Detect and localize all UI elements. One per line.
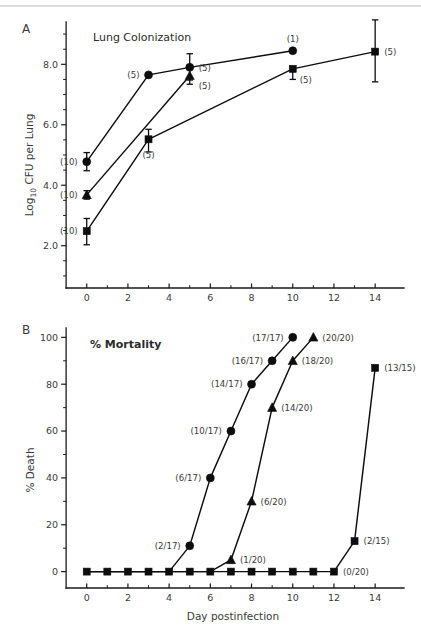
data-point-square <box>186 568 193 575</box>
point-annotation: (0/20) <box>343 567 369 577</box>
data-point-square <box>372 48 379 55</box>
panel-letter-b: B <box>22 323 30 337</box>
data-point-circle <box>186 542 194 550</box>
data-point-circle <box>206 474 214 482</box>
point-annotation: (18/20) <box>302 356 333 366</box>
data-point-circle <box>186 63 194 71</box>
y-tick-label: 6.0 <box>43 119 58 130</box>
data-point-circle <box>268 357 276 365</box>
data-point-square <box>166 568 173 575</box>
data-point-square <box>124 568 131 575</box>
point-annotation: (20/20) <box>322 333 353 343</box>
x-tick-label: 2 <box>125 292 131 303</box>
data-point-square <box>227 568 234 575</box>
point-annotation: (2/15) <box>364 536 390 546</box>
point-annotation: (10) <box>60 190 78 200</box>
data-point-square <box>310 568 317 575</box>
y-axis-label: % Death <box>24 447 36 492</box>
x-tick-label: 8 <box>249 292 255 303</box>
data-point-square <box>372 364 379 371</box>
x-tick-label: 0 <box>84 292 90 303</box>
x-tick-label: 6 <box>207 592 213 603</box>
data-point-circle <box>83 158 91 166</box>
data-point-square <box>330 568 337 575</box>
data-point-square <box>289 568 296 575</box>
x-tick-label: 10 <box>287 292 299 303</box>
point-annotation: (6/17) <box>175 473 201 483</box>
point-annotation: (10/17) <box>190 426 221 436</box>
point-annotation: (17/17) <box>252 333 283 343</box>
panel-letter-a: A <box>22 22 31 36</box>
data-point-circle <box>289 47 297 55</box>
point-annotation: (5) <box>142 150 154 160</box>
plot-title-panel_a: Lung Colonization <box>93 31 191 44</box>
x-tick-label: 14 <box>369 592 381 603</box>
data-point-circle <box>227 427 235 435</box>
data-point-square <box>207 568 214 575</box>
x-axis-label: Day postinfection <box>187 610 279 622</box>
y-tick-label: 20 <box>46 519 58 530</box>
x-tick-label: 12 <box>328 592 340 603</box>
point-annotation: (5) <box>199 63 211 73</box>
data-point-square <box>351 538 358 545</box>
data-point-square <box>289 65 296 72</box>
point-annotation: (14/17) <box>211 379 242 389</box>
point-annotation: (5) <box>127 70 139 80</box>
point-annotation: (10) <box>60 226 78 236</box>
point-annotation: (5) <box>199 81 211 91</box>
x-tick-label: 0 <box>84 592 90 603</box>
x-tick-label: 6 <box>207 292 213 303</box>
data-point-circle <box>248 380 256 388</box>
point-annotation: (1) <box>287 34 299 44</box>
data-point-square <box>269 568 276 575</box>
y-tick-label: 2.0 <box>43 240 58 251</box>
data-point-square <box>248 568 255 575</box>
data-point-square <box>83 228 90 235</box>
point-annotation: (10) <box>60 157 78 167</box>
y-tick-label: 100 <box>40 332 58 343</box>
x-tick-label: 8 <box>249 592 255 603</box>
y-tick-label: 0 <box>52 566 58 577</box>
x-tick-label: 4 <box>166 592 172 603</box>
x-tick-label: 12 <box>328 292 340 303</box>
point-annotation: (5) <box>384 47 396 57</box>
figure-root: A2.04.06.08.002468101214Lung Colonizatio… <box>0 0 421 633</box>
data-point-circle <box>289 333 297 341</box>
point-annotation: (1/20) <box>240 555 266 565</box>
y-tick-label: 80 <box>46 379 58 390</box>
data-point-square <box>145 568 152 575</box>
data-point-circle <box>145 71 153 79</box>
x-tick-label: 4 <box>166 292 172 303</box>
point-annotation: (16/17) <box>232 356 263 366</box>
x-tick-label: 2 <box>125 592 131 603</box>
x-tick-label: 14 <box>369 292 381 303</box>
y-tick-label: 40 <box>46 472 58 483</box>
y-tick-label: 4.0 <box>43 180 58 191</box>
y-tick-label: 8.0 <box>43 59 58 70</box>
point-annotation: (6/20) <box>261 497 287 507</box>
data-point-square <box>104 568 111 575</box>
data-point-square <box>145 136 152 143</box>
point-annotation: (14/20) <box>281 403 312 413</box>
x-tick-label: 10 <box>287 592 299 603</box>
scientific-figure: A2.04.06.08.002468101214Lung Colonizatio… <box>0 0 421 633</box>
plot-title-panel_b: % Mortality <box>90 338 161 351</box>
point-annotation: (2/17) <box>155 541 181 551</box>
point-annotation: (13/15) <box>384 363 415 373</box>
y-tick-label: 60 <box>46 425 58 436</box>
point-annotation: (5) <box>300 75 312 85</box>
data-point-square <box>83 568 90 575</box>
